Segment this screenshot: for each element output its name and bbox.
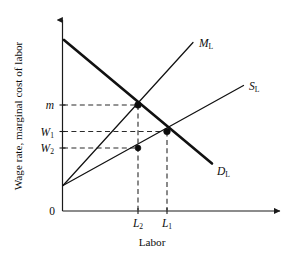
point-W1-L1	[164, 128, 171, 135]
y-axis-title: Wage rate, marginal cost of labor	[12, 41, 24, 190]
economics-diagram: m W1 W2 L2 L1 ML SL	[0, 0, 298, 256]
curves-group	[63, 40, 244, 186]
axes-group	[63, 20, 281, 211]
point-m-L2	[135, 102, 142, 109]
figure-container: m W1 W2 L2 L1 ML SL	[0, 0, 298, 256]
y-tick-labels-group: m W1 W2	[41, 99, 55, 156]
labor-supply-curve-label: SL	[249, 80, 260, 94]
x-tick-label-l2: L2	[132, 217, 143, 231]
labor-demand-curve-label: DL	[216, 165, 230, 179]
y-tick-label-m: m	[46, 99, 54, 111]
tickmarks-group	[60, 105, 168, 214]
marginal-cost-of-labor-curve	[63, 43, 193, 186]
x-tick-label-l1: L1	[161, 217, 172, 231]
guide-lines-group	[63, 105, 167, 210]
origin-label: 0	[49, 205, 55, 217]
x-tick-labels-group: L2 L1	[132, 217, 172, 231]
point-W2-L2	[135, 145, 141, 151]
y-tick-label-w1: W1	[41, 126, 55, 140]
marginal-cost-curve-label: ML	[198, 37, 214, 51]
y-tick-label-w2: W2	[41, 142, 55, 156]
x-axis-title: Labor	[139, 236, 166, 248]
